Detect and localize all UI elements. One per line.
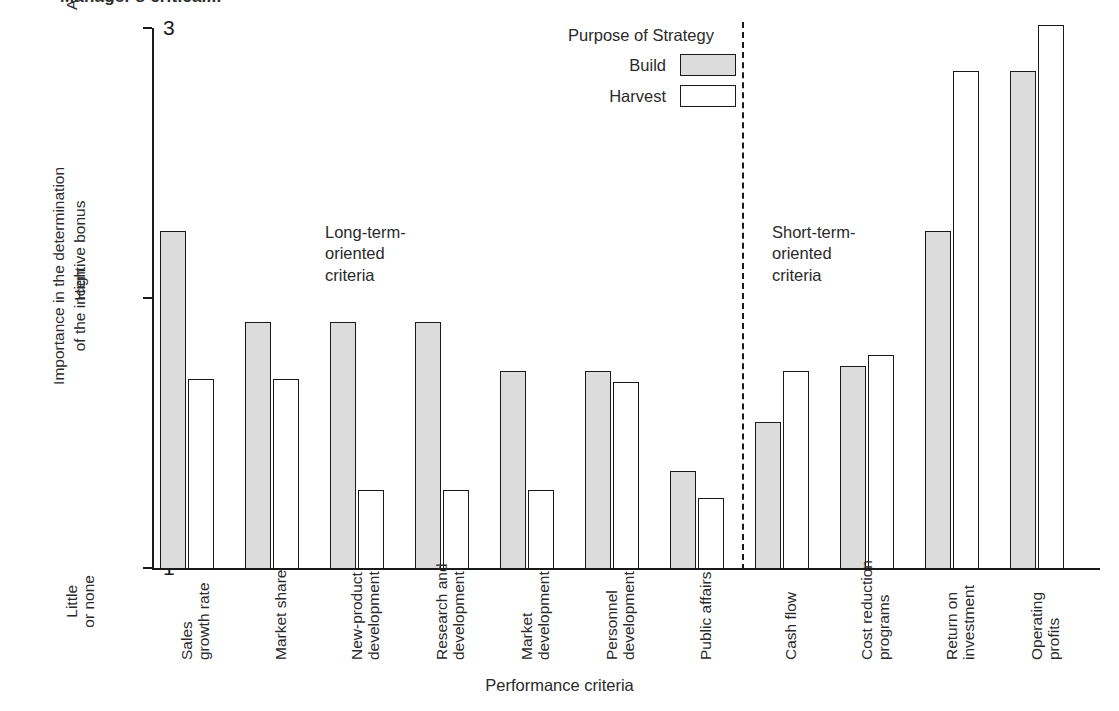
bar-harvest-9 — [953, 71, 979, 569]
y-tick-1 — [143, 567, 152, 569]
bar-build-9 — [925, 231, 951, 570]
bar-harvest-8 — [868, 355, 894, 569]
bar-build-0 — [160, 231, 186, 570]
bar-harvest-2 — [358, 490, 384, 569]
x-category-label-5: Personneldevelopment — [603, 571, 638, 660]
y-tick-2 — [143, 297, 152, 299]
bar-harvest-3 — [443, 490, 469, 569]
legend: Purpose of Strategy Build Harvest — [546, 26, 776, 107]
y-tick-label-3: 3 — [163, 16, 175, 40]
y-tick-word-1: Littleor none — [63, 551, 98, 651]
legend-swatch-harvest — [680, 85, 736, 107]
x-axis-title: Performance criteria — [0, 676, 1119, 695]
bar-build-6 — [670, 471, 696, 569]
bar-harvest-10 — [1038, 25, 1064, 569]
legend-entry-build: Build — [546, 54, 736, 76]
bar-harvest-4 — [528, 490, 554, 569]
x-category-label-2: New-productdevelopment — [348, 571, 383, 660]
bar-build-1 — [245, 322, 271, 569]
annotation-long-term: Long-term- oriented criteria — [325, 222, 406, 286]
y-tick-word-2: High — [71, 235, 88, 335]
x-category-label-1: Market share — [272, 570, 289, 660]
y-tick-3 — [143, 27, 152, 29]
bar-build-2 — [330, 322, 356, 569]
bar-harvest-1 — [273, 379, 299, 569]
bar-harvest-5 — [613, 382, 639, 569]
y-axis-line — [152, 28, 154, 570]
annotation-short-term: Short-term- oriented criteria — [772, 222, 855, 286]
bar-harvest-0 — [188, 379, 214, 569]
bar-build-5 — [585, 371, 611, 569]
bar-chart-figure: Manager's critical... Importance in the … — [0, 0, 1119, 711]
bar-harvest-6 — [698, 498, 724, 569]
legend-swatch-build — [680, 54, 736, 76]
x-category-label-7: Cash flow — [782, 592, 799, 660]
x-category-label-9: Return oninvestment — [943, 585, 978, 660]
bar-build-7 — [755, 422, 781, 569]
y-tick-word-3: A greatdeal — [63, 0, 98, 35]
x-category-label-0: Salesgrowth rate — [178, 582, 213, 660]
legend-title: Purpose of Strategy — [546, 26, 736, 45]
x-category-label-10: Operatingprofits — [1028, 592, 1063, 660]
legend-entry-harvest: Harvest — [546, 85, 736, 107]
x-category-label-8: Cost reductionprograms — [858, 560, 893, 660]
x-category-label-6: Public affairs — [697, 572, 714, 660]
legend-label-harvest: Harvest — [609, 87, 666, 106]
bar-harvest-7 — [783, 371, 809, 569]
legend-label-build: Build — [629, 56, 666, 75]
bar-build-4 — [500, 371, 526, 569]
bar-build-8 — [840, 366, 866, 570]
bar-build-3 — [415, 322, 441, 569]
x-category-label-3: Research anddevelopment — [433, 563, 468, 660]
x-category-label-4: Marketdevelopment — [518, 571, 553, 660]
bar-build-10 — [1010, 71, 1036, 569]
